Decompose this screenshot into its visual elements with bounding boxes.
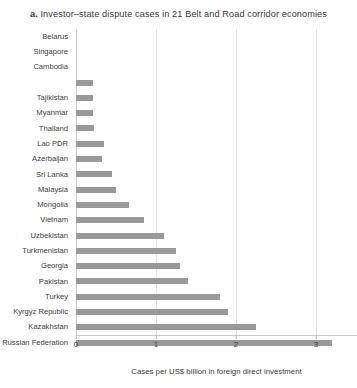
bar-row	[76, 274, 357, 289]
bar-row	[76, 105, 357, 120]
y-axis-tick: Mongolia	[0, 197, 72, 212]
tick-mark	[75, 335, 76, 339]
bar	[76, 80, 93, 86]
tick-mark	[315, 335, 316, 339]
y-axis-tick: Turkey	[0, 289, 72, 304]
y-axis-tick-label: Turkmenistan	[22, 247, 68, 255]
y-axis-tick-label: Uzbekistan	[30, 232, 68, 240]
plot-area	[76, 29, 357, 335]
bar	[76, 248, 176, 254]
y-axis-tick-label: Malaysia	[38, 186, 68, 194]
bar	[76, 125, 94, 131]
bar-row	[76, 243, 357, 258]
y-axis-tick	[0, 75, 72, 90]
bar-row	[76, 304, 357, 319]
bar	[76, 156, 102, 162]
y-axis-tick: Sri Lanka	[0, 167, 72, 182]
bar-row	[76, 29, 357, 44]
bar-row	[76, 289, 357, 304]
chart-title: a. Investor–state dispute cases in 21 Be…	[0, 9, 357, 19]
bar	[76, 187, 116, 193]
y-axis-tick: Singapore	[0, 44, 72, 59]
y-axis-tick: Kazakhstan	[0, 320, 72, 335]
y-axis-tick-label: Myanmar	[36, 109, 68, 117]
y-axis-tick-label: Cambodia	[33, 63, 68, 71]
bar	[76, 171, 112, 177]
y-axis-tick-label: Belarus	[42, 33, 68, 41]
y-axis-tick: Vietnam	[0, 213, 72, 228]
x-axis-tick: 3	[314, 335, 318, 349]
y-axis-tick-label: Azerbaijan	[32, 155, 68, 163]
y-axis-tick: Tajikistan	[0, 90, 72, 105]
y-axis-labels: Belarus Singapore Cambodia Tajikistan My…	[0, 29, 72, 335]
y-axis-tick-label: Kazakhstan	[28, 323, 68, 331]
bar-row	[76, 182, 357, 197]
bar-row	[76, 228, 357, 243]
x-axis-tick: 1	[154, 335, 158, 349]
bar	[76, 233, 164, 239]
bar-row	[76, 90, 357, 105]
y-axis-tick: Myanmar	[0, 105, 72, 120]
y-axis-tick: Azerbaijan	[0, 151, 72, 166]
y-axis-tick: Thailand	[0, 121, 72, 136]
bar	[76, 263, 180, 269]
y-axis-tick-label: Vietnam	[40, 216, 68, 224]
x-axis-ticks: 0 1 2 3	[0, 335, 357, 353]
bar-row	[76, 136, 357, 151]
bar-row	[76, 151, 357, 166]
y-axis-tick: Kyrgyz Republic	[0, 304, 72, 319]
y-axis-tick: Turkmenistan	[0, 243, 72, 258]
y-axis-tick: Cambodia	[0, 60, 72, 75]
bar-row	[76, 121, 357, 136]
bar	[76, 324, 256, 330]
y-axis-tick-label: Pakistan	[39, 278, 68, 286]
y-axis-tick: Pakistan	[0, 274, 72, 289]
x-axis-tick-label: 3	[314, 341, 318, 349]
bar	[76, 95, 93, 101]
bar-row	[76, 213, 357, 228]
x-axis-title: Cases per US$ billion in foreign direct …	[76, 367, 357, 376]
bar-row	[76, 75, 357, 90]
bar	[76, 141, 104, 147]
y-axis-tick-label: Singapore	[33, 48, 68, 56]
y-axis-tick-label: Tajikistan	[37, 94, 68, 102]
bar-row	[76, 258, 357, 273]
y-axis-tick-label: Kyrgyz Republic	[13, 308, 68, 316]
y-axis-tick-label: Mongolia	[37, 201, 68, 209]
bars-group	[76, 29, 357, 335]
x-axis-tick-label: 0	[74, 341, 78, 349]
y-axis-tick: Malaysia	[0, 182, 72, 197]
y-axis-tick-label: Georgia	[41, 262, 68, 270]
bar-row	[76, 60, 357, 75]
tick-mark	[235, 335, 236, 339]
bar	[76, 217, 144, 223]
x-axis-tick: 0	[74, 335, 78, 349]
bar	[76, 294, 220, 300]
y-axis-tick: Georgia	[0, 258, 72, 273]
y-axis-tick-label: Sri Lanka	[36, 171, 68, 179]
chart-title-prefix: a.	[30, 9, 38, 19]
bar	[76, 202, 129, 208]
bar	[76, 309, 228, 315]
y-axis-tick: Uzbekistan	[0, 228, 72, 243]
y-axis-tick-label: Thailand	[39, 125, 68, 133]
x-axis-tick: 2	[234, 335, 238, 349]
x-axis-tick-label: 1	[154, 341, 158, 349]
x-axis-tick-label: 2	[234, 341, 238, 349]
bar	[76, 110, 93, 116]
y-axis-tick: Lao PDR	[0, 136, 72, 151]
chart-figure: a. Investor–state dispute cases in 21 Be…	[0, 0, 357, 388]
bar-row	[76, 197, 357, 212]
y-axis-tick-label: Turkey	[45, 293, 68, 301]
y-axis-tick: Belarus	[0, 29, 72, 44]
y-axis-tick-label: Lao PDR	[37, 140, 68, 148]
bar-row	[76, 44, 357, 59]
bar	[76, 278, 188, 284]
tick-mark	[155, 335, 156, 339]
bar-row	[76, 320, 357, 335]
chart-title-text: Investor–state dispute cases in 21 Belt …	[38, 9, 327, 19]
bar-row	[76, 167, 357, 182]
